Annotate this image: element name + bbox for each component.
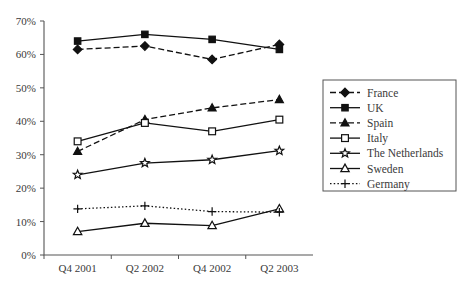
x-tick-label: Q4 2002 xyxy=(193,262,231,274)
axes-group xyxy=(44,21,313,255)
x-tick-label: Q2 2002 xyxy=(126,262,164,274)
data-point xyxy=(73,45,82,54)
y-tick-label: 10% xyxy=(16,216,36,228)
data-point xyxy=(73,170,82,178)
legend-label: The Netherlands xyxy=(367,147,444,159)
x-tick-label: Q4 2001 xyxy=(59,262,97,274)
series-the-netherlands xyxy=(73,146,284,178)
legend-label: Italy xyxy=(367,132,388,145)
data-point xyxy=(73,205,81,213)
data-point xyxy=(74,147,82,154)
y-tick-label: 40% xyxy=(16,115,36,127)
series-line xyxy=(78,206,280,212)
y-tick-label: 50% xyxy=(16,82,36,94)
data-point xyxy=(208,155,217,163)
data-point xyxy=(275,146,284,154)
line-chart-figure: 0%10%20%30%40%50%60%70%Q4 2001Q2 2002Q4 … xyxy=(0,0,458,296)
data-point xyxy=(74,38,80,44)
series-uk xyxy=(74,31,282,52)
series-france xyxy=(73,40,283,64)
legend-marker xyxy=(342,135,349,142)
series-line xyxy=(78,120,280,142)
series-italy xyxy=(74,116,283,145)
data-point xyxy=(141,202,149,210)
y-tick-label: 0% xyxy=(21,249,36,261)
data-point xyxy=(142,31,148,37)
axis-lines xyxy=(44,21,313,255)
data-point xyxy=(209,36,215,42)
legend-label: France xyxy=(367,87,398,99)
data-point xyxy=(141,120,148,127)
data-point xyxy=(208,55,217,64)
series-line xyxy=(78,151,280,175)
x-axis-ticks: Q4 2001Q2 2002Q4 2002Q2 2003 xyxy=(44,255,299,274)
legend: FranceUKSpainItalyThe NetherlandsSwedenG… xyxy=(323,80,456,191)
data-point xyxy=(141,158,150,166)
data-point xyxy=(141,42,150,51)
series-germany xyxy=(73,202,283,217)
legend-marker xyxy=(342,105,348,111)
y-axis-ticks: 0%10%20%30%40%50%60%70% xyxy=(16,15,44,261)
series-line xyxy=(78,34,280,49)
legend-label: Spain xyxy=(367,117,393,130)
y-tick-label: 30% xyxy=(16,149,36,161)
data-point xyxy=(208,207,216,215)
data-point xyxy=(74,138,81,145)
legend-label: UK xyxy=(367,102,384,114)
data-point xyxy=(209,128,216,135)
chart-canvas: 0%10%20%30%40%50%60%70%Q4 2001Q2 2002Q4 … xyxy=(0,0,458,296)
x-tick-label: Q2 2003 xyxy=(260,262,299,274)
series-line xyxy=(78,209,280,232)
data-point xyxy=(276,116,283,123)
legend-label: Sweden xyxy=(367,163,404,175)
data-point xyxy=(141,219,149,227)
series-line xyxy=(78,44,280,59)
y-tick-label: 70% xyxy=(16,15,36,27)
y-tick-label: 20% xyxy=(16,182,36,194)
legend-label: Germany xyxy=(367,178,410,191)
y-tick-label: 60% xyxy=(16,48,36,60)
data-point xyxy=(276,46,282,52)
data-point xyxy=(275,95,283,102)
